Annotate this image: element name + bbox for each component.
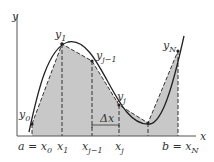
label-yN: yN [162, 39, 177, 54]
tick-b-xN: b = xN [162, 140, 199, 155]
tick-x1: x1 [57, 140, 68, 155]
y-axis-label: y [11, 10, 19, 23]
label-yj-1: yj−1 [95, 49, 117, 64]
x-axis-label: x [200, 130, 207, 143]
label-yj: yj [116, 90, 126, 105]
tick-xj: xj [115, 140, 124, 155]
label-y1: y1 [54, 28, 66, 43]
trapezoid-diagram: Δx y x y0 y1 yj−1 yj yN a = x0 x1 xj−1 x… [0, 0, 214, 162]
delta-x-label: Δx [99, 112, 115, 125]
tick-a-x0: a = x0 [18, 140, 52, 155]
label-y0: y0 [18, 108, 30, 123]
tick-xj-1: xj−1 [82, 140, 103, 155]
